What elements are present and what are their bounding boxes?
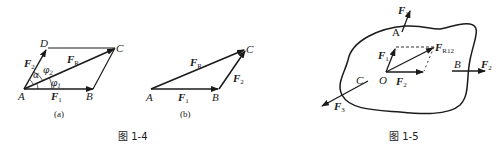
figure-1-4a: D C A B F2 FR F1 α φ2 φ1 (a) bbox=[17, 37, 124, 119]
point-b-label: B bbox=[454, 58, 461, 70]
figure-1-4b: C A B FR F2 F1 (b) bbox=[145, 43, 254, 119]
label-f1-top: F1 bbox=[397, 4, 409, 18]
point-c-label: C bbox=[246, 43, 254, 55]
label-f2: F2 bbox=[232, 72, 244, 86]
point-c-label: C bbox=[116, 42, 124, 54]
vector-fr12 bbox=[386, 48, 433, 72]
label-fr: FR bbox=[66, 53, 79, 67]
point-d-label: D bbox=[39, 37, 48, 49]
point-o-label: O bbox=[379, 74, 387, 86]
label-f2: F2 bbox=[23, 57, 35, 71]
label-f1: F1 bbox=[50, 90, 62, 104]
subfigure-a-label: (a) bbox=[54, 109, 64, 119]
label-f2-inner: F2 bbox=[395, 75, 407, 89]
label-fr: FR bbox=[189, 56, 202, 70]
subfigure-b-label: (b) bbox=[180, 109, 191, 119]
point-b-label: B bbox=[212, 91, 219, 103]
label-f3: F3 bbox=[333, 100, 345, 114]
label-fr12: FR12 bbox=[434, 41, 455, 55]
angle-phi1-label: φ1 bbox=[51, 78, 61, 89]
point-a-label: A bbox=[392, 26, 400, 38]
angle-phi2-label: φ2 bbox=[43, 65, 53, 76]
angle-alpha-label: α bbox=[33, 70, 39, 80]
angle-arc-phi1 bbox=[37, 83, 39, 89]
label-f1: F1 bbox=[177, 91, 189, 105]
figure-1-5-caption: 图 1-5 bbox=[389, 131, 419, 142]
figure-1-5: F1 A F1 FR12 O F2 B F2 C F3 bbox=[322, 4, 492, 114]
figure-1-4-caption: 图 1-4 bbox=[118, 131, 148, 142]
point-a-label: A bbox=[17, 90, 25, 102]
point-a-label: A bbox=[145, 91, 153, 103]
label-f2-right: F2 bbox=[480, 58, 492, 72]
point-b-label: B bbox=[86, 90, 93, 102]
diagram-canvas: D C A B F2 FR F1 α φ2 φ1 (a) C A B FR F2… bbox=[0, 0, 504, 147]
label-f1-inner: F1 bbox=[377, 49, 389, 63]
point-c-label: C bbox=[356, 74, 364, 86]
